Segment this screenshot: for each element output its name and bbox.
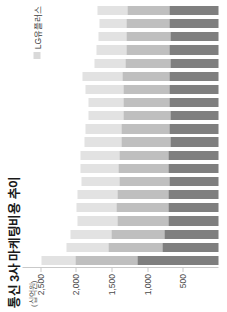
bar-segment-series-dark (169, 177, 218, 186)
bar-column[interactable] (94, 59, 218, 68)
bar-segment-series-light (77, 216, 117, 225)
bar-column[interactable] (99, 19, 218, 28)
bar-column[interactable] (77, 190, 218, 199)
bar-column[interactable] (76, 203, 218, 212)
bar-segment-series-dark (168, 164, 218, 173)
y-axis-tick (111, 268, 112, 272)
y-axis-line (22, 267, 218, 268)
bar-segment-series-mid (121, 124, 169, 133)
bar-segment-series-light (81, 177, 119, 186)
bar-column[interactable] (98, 32, 218, 41)
bar-column[interactable] (96, 45, 218, 54)
bar-segment-series-mid (122, 72, 169, 81)
bar-segment-series-mid (127, 6, 169, 15)
bar-segment-series-dark (168, 151, 218, 160)
bar-segment-series-dark (170, 59, 218, 68)
bar-segment-series-dark (169, 72, 218, 81)
bar-segment-series-dark (170, 32, 218, 41)
bar-segment-series-dark (168, 203, 218, 212)
bar-segment-series-light (96, 45, 126, 54)
bar-column[interactable] (81, 177, 218, 186)
bar-segment-series-mid (123, 111, 170, 120)
y-axis-tick-label: 2,000 (70, 274, 80, 295)
bar-column[interactable] (85, 124, 218, 133)
bar-segment-series-dark (169, 6, 218, 15)
bar-segment-series-light (80, 151, 118, 160)
bar-column[interactable] (88, 98, 218, 107)
chart-root: 통신 3사 마케팅비용 추이 (십억원) LG유플러스 2,5002,0001,… (0, 0, 227, 312)
bar-segment-series-mid (117, 190, 168, 199)
bar-segment-series-light (82, 72, 122, 81)
bar-segment-series-mid (126, 19, 169, 28)
bar-segment-series-mid (116, 203, 168, 212)
y-axis-tick (40, 268, 41, 272)
bar-segment-series-light (70, 230, 111, 239)
bar-segment-series-light (85, 85, 122, 94)
bar-segment-series-dark (169, 45, 218, 54)
bar-segment-series-dark (162, 243, 218, 252)
bar-segment-series-dark (169, 85, 218, 94)
bar-segment-series-mid (125, 59, 169, 68)
bar-segment-series-mid (119, 151, 168, 160)
bar-column[interactable] (80, 164, 218, 173)
bar-segment-series-mid (123, 98, 169, 107)
bar-segment-series-light (84, 137, 121, 146)
bar-column[interactable] (70, 230, 218, 239)
y-axis-tick-label: 1,500 (106, 274, 116, 295)
y-axis-tick (182, 268, 183, 272)
bar-column[interactable] (80, 151, 218, 160)
bar-segment-series-dark (168, 216, 218, 225)
y-axis-tick (147, 268, 148, 272)
bar-column[interactable] (82, 72, 218, 81)
bar-column[interactable] (77, 216, 218, 225)
bar-segment-series-dark (170, 137, 218, 146)
bar-segment-series-mid (123, 85, 169, 94)
y-axis-tick-label: 500 (177, 274, 187, 288)
bar-column[interactable] (88, 111, 218, 120)
plot-area: 2,5002,0001,5001,000500 (22, 5, 218, 268)
bar-segment-series-mid (108, 243, 162, 252)
bar-segment-series-mid (75, 256, 138, 265)
bar-column[interactable] (85, 85, 218, 94)
bar-segment-series-mid (121, 137, 169, 146)
bar-segment-series-dark (169, 98, 218, 107)
bar-segment-series-light (41, 256, 75, 265)
bar-segment-series-dark (169, 124, 218, 133)
bar-segment-series-mid (119, 177, 169, 186)
y-axis-tick (75, 268, 76, 272)
bar-segment-series-dark (169, 19, 218, 28)
bar-segment-series-mid (118, 164, 168, 173)
bar-segment-series-light (99, 19, 126, 28)
bar-segment-series-light (88, 98, 122, 107)
bar-segment-series-light (88, 111, 123, 120)
bar-segment-series-dark (137, 256, 218, 265)
bar-segment-series-mid (126, 32, 169, 41)
bar-column[interactable] (41, 256, 218, 265)
bar-segment-series-light (66, 243, 108, 252)
y-axis-tick-label: 1,000 (142, 274, 152, 295)
bar-segment-series-light (94, 59, 125, 68)
bar-segment-series-light (85, 124, 121, 133)
bar-segment-series-light (77, 190, 117, 199)
bar-segment-series-mid (126, 45, 169, 54)
bar-segment-series-dark (170, 111, 218, 120)
bar-column[interactable] (66, 243, 219, 252)
bar-segment-series-mid (111, 230, 164, 239)
y-axis-tick-label: 2,500 (35, 274, 45, 295)
bar-segment-series-light (76, 203, 116, 212)
bar-segment-series-light (97, 6, 127, 15)
bar-column[interactable] (97, 6, 218, 15)
bar-series-group (22, 5, 218, 267)
rotated-chart-frame: 통신 3사 마케팅비용 추이 (십억원) LG유플러스 2,5002,0001,… (0, 0, 227, 312)
page-title: 통신 3사 마케팅비용 추이 (3, 176, 22, 308)
bar-segment-series-dark (164, 230, 218, 239)
bar-segment-series-light (98, 32, 127, 41)
bar-column[interactable] (84, 137, 218, 146)
bar-segment-series-light (80, 164, 118, 173)
bar-segment-series-dark (168, 190, 218, 199)
bar-segment-series-mid (117, 216, 168, 225)
